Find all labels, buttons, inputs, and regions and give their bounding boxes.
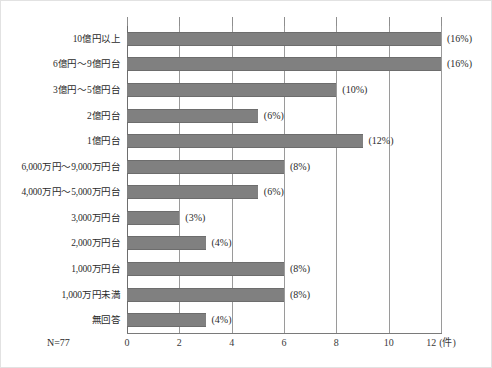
category-label: 6億円～9億円台 [53, 59, 121, 70]
bar-row: 1,000万円未満(8%) [127, 282, 441, 308]
bar-value-label: (16%) [447, 33, 472, 45]
bar [127, 134, 363, 148]
category-label: 無回答 [92, 315, 121, 326]
bar-value-label: (6%) [264, 186, 284, 198]
bar [127, 32, 441, 46]
category-label: 1,000万円未満 [61, 289, 121, 300]
bar-row: 4,000万円～5,000万円台(6%) [127, 180, 441, 206]
x-axis-unit-label: (件) [439, 337, 456, 348]
bar-value-label: (16%) [447, 58, 472, 70]
plot-area: 10億円以上(16%)6億円～9億円台(16%)3億円～5億円台(10%)2億円… [127, 26, 441, 333]
x-tick-label-6: 6 [282, 337, 287, 349]
bar [127, 236, 206, 250]
bar-value-label: (8%) [290, 289, 310, 301]
gridline-x-12 [441, 26, 442, 333]
x-tick-mark-2 [179, 17, 180, 26]
x-tick-label-4: 4 [229, 337, 234, 349]
x-tick-mark-0 [127, 17, 128, 26]
category-label: 4,000万円～5,000万円台 [21, 187, 121, 198]
x-tick-label-2: 2 [177, 337, 182, 349]
bar [127, 288, 284, 302]
x-tick-label-12: 12(件) [426, 337, 456, 349]
x-tick-label-10: 10 [384, 337, 394, 349]
bar-value-label: (4%) [212, 314, 232, 326]
bar-row: 10億円以上(16%) [127, 26, 441, 52]
category-label: 1,000万円台 [71, 264, 121, 275]
category-label: 10億円以上 [73, 33, 121, 44]
category-label: 2億円台 [87, 110, 121, 121]
category-label: 2,000万円台 [71, 238, 121, 249]
bar [127, 83, 336, 97]
bar [127, 160, 284, 174]
bar-value-label: (8%) [290, 161, 310, 173]
bar-row: 6,000万円～9,000万円台(8%) [127, 154, 441, 180]
x-tick-mark-8 [336, 17, 337, 26]
bar-value-label: (3%) [185, 212, 205, 224]
category-label: 1億円台 [87, 136, 121, 147]
bar-row: 3億円～5億円台(10%) [127, 77, 441, 103]
bar-value-label: (6%) [264, 110, 284, 122]
bar-chart-figure: 10億円以上(16%)6億円～9億円台(16%)3億円～5億円台(10%)2億円… [0, 0, 492, 368]
bar [127, 262, 284, 276]
x-tick-mark-12 [441, 17, 442, 26]
category-label: 3億円～5億円台 [53, 84, 121, 95]
bar-row: 3,000万円台(3%) [127, 205, 441, 231]
category-label: 3,000万円台 [71, 212, 121, 223]
x-axis-line [127, 333, 442, 334]
bar-row: 無回答(4%) [127, 307, 441, 333]
bar-row: 2,000万円台(4%) [127, 231, 441, 257]
bar-row: 1,000万円台(8%) [127, 256, 441, 282]
bar-row: 1億円台(12%) [127, 128, 441, 154]
bar-value-label: (12%) [369, 135, 394, 147]
x-tick-mark-6 [284, 17, 285, 26]
x-tick-label-8: 8 [334, 337, 339, 349]
x-tick-label-0: 0 [125, 337, 130, 349]
bar [127, 109, 258, 123]
bar-value-label: (10%) [342, 84, 367, 96]
bar [127, 211, 179, 225]
bar [127, 313, 206, 327]
bar [127, 185, 258, 199]
bar-row: 6億円～9億円台(16%) [127, 52, 441, 78]
bar-value-label: (8%) [290, 263, 310, 275]
bar-value-label: (4%) [212, 237, 232, 249]
sample-size-label: N=77 [47, 337, 70, 349]
bar-row: 2億円台(6%) [127, 103, 441, 129]
x-tick-mark-4 [232, 17, 233, 26]
category-label: 6,000万円～9,000万円台 [21, 161, 121, 172]
bar [127, 57, 441, 71]
x-tick-mark-10 [389, 17, 390, 26]
